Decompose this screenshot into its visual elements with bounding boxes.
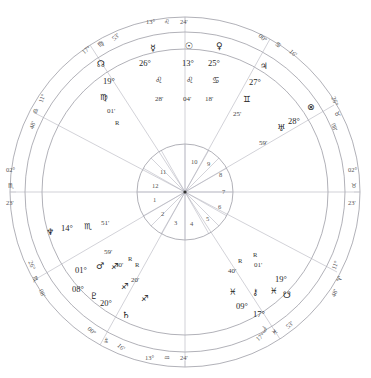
mars-retrograde: R <box>128 256 132 263</box>
south-node-degree: 19° <box>275 275 287 284</box>
saturn-icon: ♄ <box>122 311 130 320</box>
cusp-4-minute: 24' <box>180 355 188 362</box>
house-number-7: 7 <box>222 189 225 196</box>
wheel-graphics <box>0 0 371 378</box>
house-number-12: 12 <box>152 183 159 190</box>
moon-degree: 17° <box>253 310 265 319</box>
chart-center-point <box>183 190 186 193</box>
cusp-7-sign: ♉ <box>351 183 357 190</box>
sun-icon: ☉ <box>185 42 193 51</box>
house-number-11: 11 <box>160 169 166 176</box>
moon-icon: ☽ <box>259 326 267 335</box>
mars-icon: ♂ <box>96 262 104 271</box>
house-number-1: 1 <box>153 197 156 204</box>
cusp-7-degree: 02° <box>348 167 357 174</box>
house-number-5: 5 <box>206 216 209 223</box>
chiron-degree: 09° <box>236 302 248 311</box>
moon-sign: ♓ <box>270 287 278 296</box>
house-number-6: 6 <box>218 204 221 211</box>
jupiter-icon: ♃ <box>260 62 268 71</box>
sun-minute: 04' <box>183 96 191 103</box>
neptune-minute: 51' <box>101 220 109 227</box>
cusp-10-degree: 13° <box>146 19 155 26</box>
sun-degree: 13° <box>182 59 194 68</box>
venus-icon: ♀ <box>216 42 223 51</box>
house-number-8: 8 <box>219 172 222 179</box>
mercury-sign: ♌ <box>155 76 163 85</box>
pluto-degree: 08° <box>72 285 84 294</box>
chiron-sign: ♓ <box>229 288 237 297</box>
house-number-3: 3 <box>174 220 177 227</box>
astrology-chart: 13° ♌ 24' 17° ♍ 53' 11° ♎ 48' 02° ♏ 23' … <box>0 0 371 378</box>
cusp-4-degree: 13° <box>145 355 154 362</box>
venus-degree: 25° <box>208 59 220 68</box>
chiron-retrograde: R <box>238 258 242 265</box>
venus-minute: 18' <box>205 96 213 103</box>
cusp-1-degree: 02° <box>6 167 15 174</box>
mercury-degree: 26° <box>139 59 151 68</box>
cusp-1-minute: 23' <box>6 200 14 207</box>
north-node-retrograde: R <box>115 120 119 127</box>
north-node-sign: ♍ <box>100 93 108 102</box>
pluto-sign: ♐ <box>121 282 129 291</box>
cusp-4-sign: ♒ <box>164 355 170 362</box>
uranus-degree: 28° <box>288 117 300 126</box>
mercury-minute: 28' <box>155 96 163 103</box>
house-number-10: 10 <box>191 159 198 166</box>
mars-degree: 01° <box>75 266 87 275</box>
cusp-10-sign: ♌ <box>164 19 170 26</box>
pluto-minute: 30' <box>115 262 123 269</box>
pluto-retrograde: R <box>135 262 139 269</box>
uranus-icon: ♅ <box>277 124 285 133</box>
chiron-icon: ⚷ <box>252 288 259 297</box>
cusp-1-sign: ♏ <box>8 183 14 190</box>
mars-minute: 59' <box>104 249 112 256</box>
north-node-icon: ☊ <box>97 60 105 69</box>
neptune-degree: 14° <box>61 224 73 233</box>
mercury-icon: ☿ <box>150 44 156 53</box>
house-number-4: 4 <box>190 221 193 228</box>
saturn-degree: 20° <box>100 299 112 308</box>
part-of-fortune-icon: ⊗ <box>307 103 315 112</box>
sun-sign: ♌ <box>186 76 194 85</box>
north-node-degree: 19° <box>103 77 115 86</box>
south-node-minute: 01' <box>254 262 262 269</box>
cusp-7-minute: 23' <box>348 200 356 207</box>
south-node-retrograde: R <box>253 252 257 259</box>
house-number-9: 9 <box>207 161 210 168</box>
venus-sign: ♋ <box>212 76 220 85</box>
chiron-minute: 40' <box>228 268 236 275</box>
pluto-icon: ♇ <box>90 292 98 301</box>
neptune-sign: ♏ <box>84 222 92 231</box>
neptune-icon: ♆ <box>46 228 54 237</box>
house-number-2: 2 <box>161 211 164 218</box>
jupiter-sign: ♊ <box>243 95 251 104</box>
uranus-minute: 59' <box>259 140 267 147</box>
jupiter-minute: 25' <box>233 111 241 118</box>
jupiter-degree: 27° <box>249 78 261 87</box>
north-node-minute: 01' <box>107 108 115 115</box>
saturn-sign: ♐ <box>141 294 149 303</box>
saturn-minute: 20' <box>131 277 139 284</box>
south-node-icon: ☋ <box>283 291 291 300</box>
cusp-10-minute: 24' <box>180 19 188 26</box>
